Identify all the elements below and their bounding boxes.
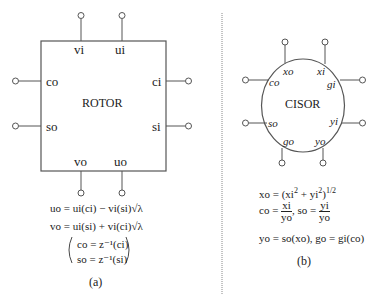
rotor-top-terminals bbox=[78, 13, 125, 42]
eq-part: , so = bbox=[292, 204, 319, 216]
eq-part: co = bbox=[259, 204, 281, 216]
diagram-canvas bbox=[0, 0, 373, 302]
rotor-port-so: so bbox=[46, 120, 58, 133]
fraction-co: xiyo bbox=[281, 200, 292, 223]
rotor-right-terminals bbox=[166, 78, 192, 129]
rotor-port-si: si bbox=[152, 120, 161, 133]
cisor-port-yo: yo bbox=[315, 135, 325, 148]
rotor-bottom-terminals bbox=[78, 171, 125, 196]
rotor-caption: (a) bbox=[89, 275, 102, 290]
cisor-port-xo: xo bbox=[283, 65, 293, 78]
cisor-equation-yo-go: yo = so(xo), go = gi(co) bbox=[259, 232, 364, 244]
cisor-port-co: co bbox=[269, 76, 279, 89]
rotor-port-ui: ui bbox=[115, 43, 125, 56]
left-paren bbox=[69, 237, 72, 263]
denominator: yo bbox=[319, 212, 330, 223]
cisor-port-so: so bbox=[268, 117, 278, 130]
eq-sup: 1/2 bbox=[326, 186, 336, 195]
cisor-caption: (b) bbox=[297, 254, 311, 269]
cisor-port-xi: xi bbox=[317, 65, 325, 78]
rotor-equation-co: co = z⁻¹(ci) bbox=[77, 238, 128, 250]
eq-part: xo = (xi bbox=[259, 188, 294, 200]
rotor-port-co: co bbox=[46, 75, 58, 88]
rotor-left-terminals bbox=[13, 78, 42, 129]
cisor-equation-co-so: co = xiyo, so = yiyo bbox=[259, 200, 330, 223]
denominator: yo bbox=[281, 212, 292, 223]
rotor-title: ROTOR bbox=[82, 96, 122, 111]
cisor-port-yi: yi bbox=[330, 115, 338, 128]
cisor-port-go: go bbox=[283, 135, 294, 148]
rotor-port-uo: uo bbox=[114, 155, 127, 168]
rotor-equation-so: so = z⁻¹(si) bbox=[77, 253, 127, 265]
cisor-title: CISOR bbox=[285, 97, 320, 112]
rotor-port-vi: vi bbox=[74, 43, 84, 56]
rotor-equation-vo: vo = ui(si) + vi(ci)√λ bbox=[50, 220, 143, 232]
rotor-equation-uo: uo = ui(ci) − vi(si)√λ bbox=[50, 202, 143, 214]
fraction-so: yiyo bbox=[319, 200, 330, 223]
eq-part: + yi bbox=[298, 188, 318, 200]
cisor-port-gi: gi bbox=[327, 78, 336, 91]
cisor-equation-xo: xo = (xi2 + yi2)1/2 bbox=[259, 185, 336, 200]
rotor-port-ci: ci bbox=[152, 75, 161, 88]
rotor-port-vo: vo bbox=[74, 155, 87, 168]
